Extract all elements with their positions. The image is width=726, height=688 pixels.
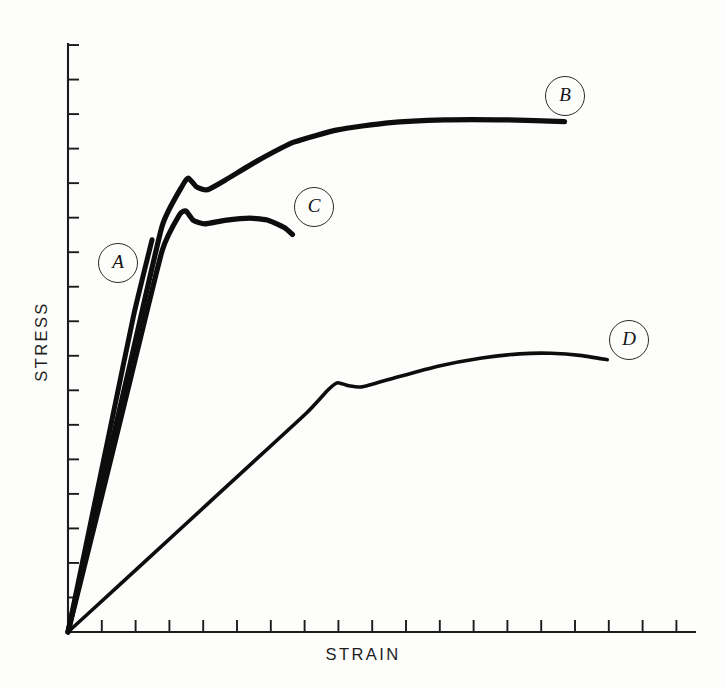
- curve-label-c: C: [294, 187, 334, 227]
- curve-label-d: D: [609, 320, 649, 360]
- curve-label-b: B: [545, 76, 585, 116]
- curve-group: [68, 120, 607, 632]
- stress-strain-figure: STRESS STRAIN A B C D: [0, 0, 726, 688]
- y-axis-label: STRESS: [32, 282, 51, 402]
- x-axis-ticks: [102, 620, 677, 632]
- curve-label-a: A: [98, 243, 138, 283]
- curve-d: [68, 353, 607, 632]
- x-axis-label: STRAIN: [0, 645, 726, 664]
- y-axis-ticks: [68, 45, 79, 597]
